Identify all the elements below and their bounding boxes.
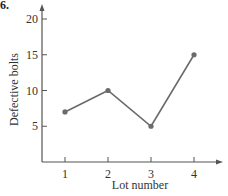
data-point [62, 109, 67, 114]
y-axis-label: Defective bolts [7, 45, 22, 135]
y-tick-label: 5 [32, 119, 38, 133]
data-point [148, 124, 153, 129]
y-tick-label: 15 [26, 48, 38, 62]
data-point [191, 52, 196, 57]
x-axis-label: Lot number [100, 178, 180, 193]
y-tick-label: 20 [26, 12, 38, 26]
y-axis-arrow-icon [40, 4, 45, 11]
y-tick-label: 10 [26, 84, 38, 98]
data-line [65, 55, 194, 127]
data-point [105, 88, 110, 93]
x-axis-arrow-icon [216, 160, 223, 165]
x-tick-label: 1 [62, 167, 68, 181]
x-tick-label: 4 [191, 167, 197, 181]
line-chart: 51015201234 [0, 0, 228, 196]
